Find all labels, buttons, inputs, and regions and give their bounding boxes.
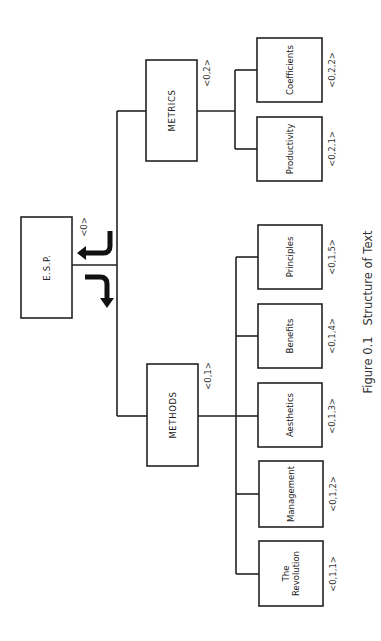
node-aesthetics: Aesthetics<0,1,3>	[258, 383, 337, 447]
node-management: Management<0,1,2>	[259, 461, 338, 527]
node-esp: E.S.P.<0>	[21, 217, 89, 318]
node-label: Productivity	[285, 124, 295, 174]
arrow-from-root-icon	[85, 277, 114, 308]
node-code: <0,2,2>	[327, 52, 337, 88]
node-productivity: Productivity<0,2,1>	[257, 117, 337, 181]
node-code: <0,1,3>	[327, 398, 337, 434]
node-label: Benefits	[285, 318, 295, 353]
flow-arrows	[77, 231, 114, 308]
node-label: Aesthetics	[285, 392, 295, 437]
node-coefficients: Coefficients<0,2,2>	[257, 38, 337, 102]
node-code: <0>	[79, 217, 89, 237]
node-methods: METHODS<0,1>	[147, 362, 213, 466]
node-principles: Principles<0,1,5>	[258, 225, 337, 289]
node-code: <0,1,4>	[327, 318, 337, 354]
node-code: <0,1,2>	[328, 476, 338, 512]
node-benefits: Benefits<0,1,4>	[258, 304, 337, 368]
node-label: Coefficients	[285, 44, 295, 95]
node-label: Principles	[285, 236, 295, 277]
node-label: E.S.P.	[42, 254, 52, 280]
node-code: <0,1,1>	[328, 556, 338, 592]
node-code: <0,2>	[202, 59, 212, 87]
diagram-nodes: E.S.P.<0>METRICS<0,2>METHODS<0,1>Coeffic…	[21, 38, 338, 606]
node-code: <0,1>	[203, 362, 213, 390]
node-metrics: METRICS<0,2>	[146, 59, 212, 161]
node-label: METRICS	[167, 90, 177, 132]
node-label: METHODS	[168, 391, 178, 438]
node-code: <0,2,1>	[327, 131, 337, 167]
figure-caption: Figure 0.1 Structure of Text	[361, 230, 375, 394]
node-revolution: TheRevolution<0,1,1>	[259, 541, 338, 606]
tree-diagram: E.S.P.<0>METRICS<0,2>METHODS<0,1>Coeffic…	[0, 0, 381, 641]
node-code: <0,1,5>	[327, 239, 337, 275]
node-label: Management	[286, 465, 296, 522]
